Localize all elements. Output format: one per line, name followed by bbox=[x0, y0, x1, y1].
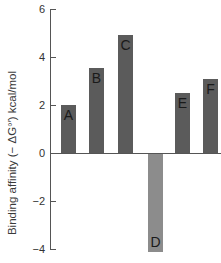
bar-chart: Binding affinity (− ΔG°′) kcal/mol 6420−… bbox=[0, 0, 221, 263]
bar-label: A bbox=[61, 107, 76, 123]
y-tick bbox=[50, 105, 56, 106]
bar-a: A bbox=[61, 105, 76, 153]
bar-label: C bbox=[118, 37, 133, 53]
bar-label: B bbox=[89, 70, 104, 86]
y-axis-line bbox=[50, 9, 51, 249]
y-axis-label: Binding affinity (− ΔG°′) kcal/mol bbox=[6, 71, 18, 235]
bar-label: E bbox=[175, 95, 190, 111]
y-tick bbox=[50, 9, 56, 10]
y-tick bbox=[50, 201, 56, 202]
bar-b: B bbox=[89, 68, 104, 153]
y-tick-label: 4 bbox=[25, 51, 45, 63]
y-tick bbox=[50, 153, 56, 154]
y-tick bbox=[50, 249, 56, 250]
bar-f: F bbox=[203, 79, 218, 153]
bar-label: D bbox=[148, 234, 163, 250]
y-tick-label: 2 bbox=[25, 99, 45, 111]
bar-d: D bbox=[148, 154, 163, 252]
y-tick-label: 6 bbox=[25, 3, 45, 15]
bar-label: F bbox=[203, 81, 218, 97]
y-tick-label: −2 bbox=[25, 195, 45, 207]
zero-baseline bbox=[50, 153, 221, 154]
y-tick-label: −4 bbox=[25, 243, 45, 255]
y-tick-label: 0 bbox=[25, 147, 45, 159]
y-tick bbox=[50, 57, 56, 58]
bar-e: E bbox=[175, 93, 190, 153]
bar-c: C bbox=[118, 35, 133, 153]
